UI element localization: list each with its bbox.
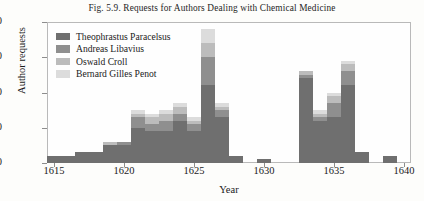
legend-item: Theophrastus Paracelsus bbox=[56, 30, 171, 43]
x-tick-label: 1640 bbox=[380, 165, 424, 176]
bar-segment bbox=[341, 85, 355, 163]
bar-segment bbox=[257, 159, 271, 163]
chart-title: Fig. 5.9. Requests for Authors Dealing w… bbox=[0, 3, 424, 13]
x-tick-mark bbox=[264, 163, 265, 167]
bar-segment bbox=[117, 145, 131, 163]
legend-item: Oswald Croll bbox=[56, 55, 171, 68]
bar-segment bbox=[327, 96, 341, 103]
bar-1618 bbox=[89, 152, 103, 163]
y-tick-label: 10 bbox=[0, 121, 2, 132]
bar-segment bbox=[341, 61, 355, 65]
bar-segment bbox=[341, 64, 355, 71]
bar-1617 bbox=[75, 152, 89, 163]
bar-segment bbox=[187, 131, 201, 163]
legend-label: Theophrastus Paracelsus bbox=[76, 32, 171, 42]
y-tick-label: 20 bbox=[0, 86, 2, 97]
bar-segment bbox=[103, 142, 117, 146]
bar-segment bbox=[173, 107, 187, 114]
bar-1635 bbox=[327, 93, 341, 164]
y-tick-mark bbox=[42, 163, 47, 164]
x-tick-mark bbox=[54, 163, 55, 167]
bar-segment bbox=[299, 71, 313, 75]
bar-segment bbox=[75, 152, 89, 163]
bar-segment bbox=[173, 103, 187, 107]
bar-1624 bbox=[173, 103, 187, 163]
bar-1622 bbox=[145, 114, 159, 163]
bar-segment bbox=[159, 121, 173, 132]
bar-1625 bbox=[187, 117, 201, 163]
legend-swatch-icon bbox=[56, 70, 70, 78]
bar-segment bbox=[327, 117, 341, 163]
bar-1627 bbox=[215, 103, 229, 163]
bar-segment bbox=[131, 128, 145, 163]
legend-swatch-icon bbox=[56, 33, 70, 41]
bar-segment bbox=[341, 71, 355, 85]
bar-1621 bbox=[131, 110, 145, 163]
bar-segment bbox=[145, 124, 159, 131]
bar-segment bbox=[201, 43, 215, 57]
bar-segment bbox=[187, 121, 201, 125]
bar-segment bbox=[47, 156, 61, 163]
bar-segment bbox=[201, 57, 215, 85]
x-tick-mark bbox=[404, 163, 405, 167]
bar-segment bbox=[215, 110, 229, 117]
y-tick-label: 0 bbox=[0, 156, 2, 167]
bar-segment bbox=[145, 117, 159, 124]
x-tick-mark bbox=[194, 163, 195, 167]
y-tick-label: 30 bbox=[0, 50, 2, 61]
y-tick-label: 40 bbox=[0, 15, 2, 26]
bar-1633 bbox=[299, 71, 313, 163]
bar-1616 bbox=[61, 156, 75, 163]
bar-segment bbox=[201, 85, 215, 163]
x-tick-mark bbox=[334, 163, 335, 167]
bar-1620 bbox=[117, 142, 131, 163]
bar-segment bbox=[313, 121, 327, 163]
bar-1634 bbox=[313, 110, 327, 163]
bar-segment bbox=[327, 93, 341, 97]
bar-segment bbox=[313, 110, 327, 114]
bar-segment bbox=[327, 103, 341, 117]
bar-segment bbox=[131, 114, 145, 118]
bar-1636 bbox=[341, 61, 355, 163]
legend-label: Bernard Gilles Penot bbox=[76, 69, 156, 79]
legend-item: Bernard Gilles Penot bbox=[56, 68, 171, 81]
bar-segment bbox=[159, 110, 173, 114]
bar-segment bbox=[117, 142, 131, 146]
bar-1630 bbox=[257, 159, 271, 163]
bar-1619 bbox=[103, 142, 117, 163]
bar-segment bbox=[159, 131, 173, 163]
bar-segment bbox=[313, 117, 327, 121]
x-axis-label: Year bbox=[47, 184, 411, 195]
bar-1639 bbox=[383, 156, 397, 163]
bar-1615 bbox=[47, 156, 61, 163]
bar-segment bbox=[383, 156, 397, 163]
bar-segment bbox=[173, 121, 187, 163]
bar-segment bbox=[187, 124, 201, 131]
bar-segment bbox=[173, 114, 187, 121]
bar-segment bbox=[299, 75, 313, 79]
bar-1623 bbox=[159, 110, 173, 163]
bar-segment bbox=[131, 117, 145, 128]
bar-segment bbox=[215, 103, 229, 107]
bar-segment bbox=[201, 29, 215, 43]
bar-1628 bbox=[229, 156, 243, 163]
bar-segment bbox=[215, 117, 229, 163]
bar-segment bbox=[61, 156, 75, 163]
bar-segment bbox=[355, 152, 369, 163]
legend-label: Andreas Libavius bbox=[76, 44, 144, 54]
figure-chemical-medicine-requests: Fig. 5.9. Requests for Authors Dealing w… bbox=[0, 0, 424, 201]
bar-segment bbox=[215, 107, 229, 111]
bar-segment bbox=[159, 114, 173, 121]
bar-segment bbox=[131, 110, 145, 114]
bar-segment bbox=[145, 131, 159, 163]
legend-item: Andreas Libavius bbox=[56, 43, 171, 56]
bar-segment bbox=[229, 156, 243, 163]
legend-swatch-icon bbox=[56, 45, 70, 53]
bar-segment bbox=[187, 117, 201, 121]
y-axis-label: Author requests bbox=[16, 1, 27, 121]
bar-1626 bbox=[201, 29, 215, 163]
bar-segment bbox=[103, 145, 117, 163]
bar-1637 bbox=[355, 152, 369, 163]
bar-segment bbox=[299, 78, 313, 163]
bar-segment bbox=[313, 114, 327, 118]
